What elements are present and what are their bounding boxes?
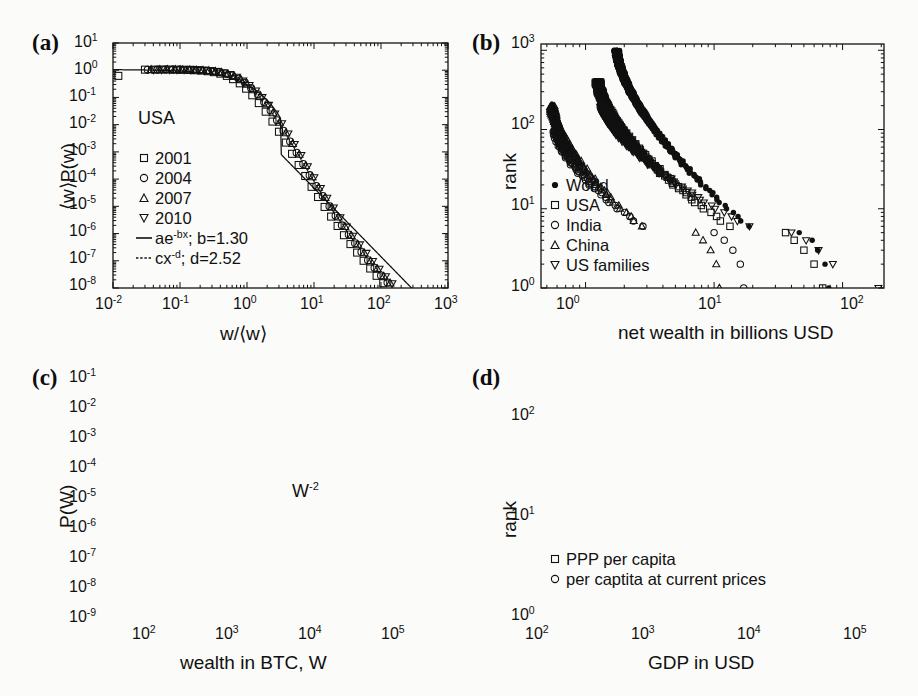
- panel-b: (b) 103 102 101 100 100 101 102 net weal…: [459, 0, 918, 348]
- figure-panel-grid: (a) 101 100 10-1 10-2 10-3 10-4 10-5 10-…: [0, 0, 918, 696]
- panel-c: (c) 10-1 10-2 10-3 10-4 10-5 10-6 10-7 1…: [0, 348, 459, 696]
- panel-d-plot: [459, 348, 918, 696]
- panel-c-plot: [0, 348, 459, 696]
- panel-a-plot: [0, 0, 459, 348]
- panel-b-plot: [459, 0, 918, 348]
- panel-d: (d) 102 101 100 102 103 104 105 GDP in U…: [459, 348, 918, 696]
- panel-a: (a) 101 100 10-1 10-2 10-3 10-4 10-5 10-…: [0, 0, 459, 348]
